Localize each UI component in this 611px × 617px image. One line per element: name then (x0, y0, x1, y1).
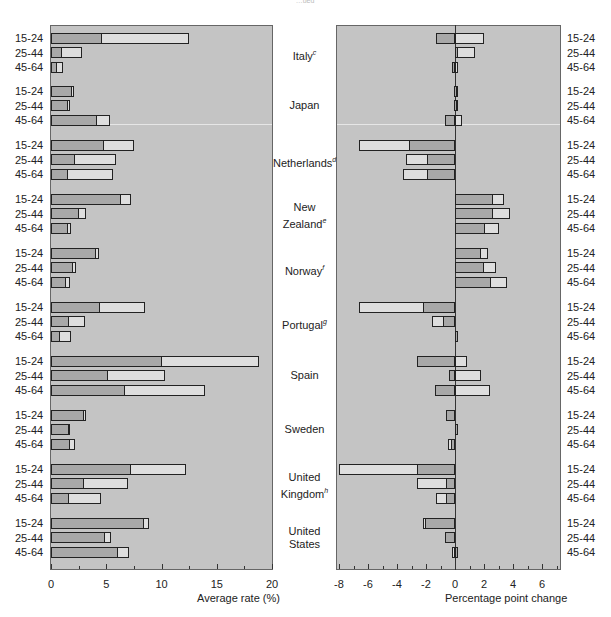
age-label-left: 25-44 (15, 100, 43, 112)
age-label-left: 25-44 (15, 47, 43, 59)
right-tick-label: -4 (382, 578, 412, 590)
bar-change-dark (445, 532, 455, 543)
age-label-left: 45-64 (15, 276, 43, 288)
bar-inner (51, 302, 100, 313)
age-label-left: 15-24 (15, 517, 43, 529)
bar-change-dark (455, 223, 485, 234)
bar-inner (51, 424, 69, 435)
bar-change-dark (452, 62, 455, 73)
age-label-left: 25-44 (15, 316, 43, 328)
country-label: Netherlandsd (273, 153, 336, 170)
bar-inner (51, 385, 125, 396)
bar-change-dark (449, 370, 455, 381)
age-label-right: 25-44 (567, 532, 595, 544)
bar-change-dark (454, 86, 457, 97)
bar-inner (51, 208, 79, 219)
bar-change-light (455, 356, 467, 367)
bar-change-dark (423, 302, 455, 313)
right-axis-title: Percentage point change (445, 592, 567, 604)
partial-caption: …ued (240, 0, 370, 6)
axis-tick (134, 566, 135, 569)
age-label-right: 45-64 (567, 438, 595, 450)
age-label-right: 45-64 (567, 330, 595, 342)
bar-change-light (455, 33, 484, 44)
bar-inner (51, 464, 131, 475)
age-label-right: 15-24 (567, 32, 595, 44)
right-tick-label: 4 (498, 578, 528, 590)
age-label-left: 15-24 (15, 355, 43, 367)
age-label-right: 45-64 (567, 114, 595, 126)
axis-tick (51, 564, 52, 569)
bar-inner (51, 547, 118, 558)
age-label-left: 15-24 (15, 463, 43, 475)
bar-change-dark (443, 316, 455, 327)
country-label: Italyc (273, 46, 336, 63)
axis-tick (513, 564, 514, 569)
age-label-left: 45-64 (15, 222, 43, 234)
bar-inner (51, 154, 75, 165)
age-label-right: 45-64 (567, 168, 595, 180)
bar-change-dark (425, 518, 455, 529)
left-axis-title: Average rate (%) (197, 592, 280, 604)
axis-tick (397, 564, 398, 569)
age-label-left: 45-64 (15, 61, 43, 73)
bar-inner (51, 223, 68, 234)
age-label-right: 15-24 (567, 301, 595, 313)
bar-change-dark (455, 277, 491, 288)
bar-inner (51, 33, 102, 44)
country-label: UnitedKingdomh (273, 471, 336, 501)
bar-inner (51, 532, 105, 543)
age-label-right: 25-44 (567, 208, 595, 220)
age-label-left: 45-64 (15, 438, 43, 450)
bar-change-dark (427, 169, 455, 180)
bar-inner (51, 47, 62, 58)
bar-change-dark (436, 33, 455, 44)
bar-change-dark (455, 424, 458, 435)
bar-inner (51, 100, 68, 111)
bar-inner (51, 439, 70, 450)
age-label-right: 25-44 (567, 370, 595, 382)
bar-change-light (455, 385, 490, 396)
bar-change-light (455, 47, 475, 58)
age-label-left: 45-64 (15, 384, 43, 396)
bar-inner (51, 140, 104, 151)
bar-change-light (455, 115, 462, 126)
age-label-right: 15-24 (567, 355, 595, 367)
age-label-left: 15-24 (15, 193, 43, 205)
bar-change-dark (435, 385, 455, 396)
age-label-left: 15-24 (15, 247, 43, 259)
age-label-right: 15-24 (567, 463, 595, 475)
age-label-right: 45-64 (567, 492, 595, 504)
bar-inner (51, 262, 73, 273)
bar-inner (51, 410, 84, 421)
age-label-right: 45-64 (567, 61, 595, 73)
axis-tick (79, 566, 80, 569)
age-label-left: 25-44 (15, 424, 43, 436)
axis-tick (339, 564, 340, 569)
bar-inner (51, 248, 96, 259)
right-tick-label: 2 (469, 578, 499, 590)
age-label-right: 15-24 (567, 193, 595, 205)
axis-tick (217, 564, 218, 569)
bar-change-dark (455, 262, 484, 273)
bar-change-dark (455, 331, 458, 342)
axis-tick (412, 566, 413, 569)
bar-inner (51, 356, 162, 367)
age-label-left: 25-44 (15, 370, 43, 382)
right-tick-label: 6 (527, 578, 557, 590)
bar-inner (51, 478, 84, 489)
bar-change-light (455, 62, 458, 73)
age-label-right: 25-44 (567, 47, 595, 59)
bar-change-dark (445, 115, 455, 126)
age-label-left: 45-64 (15, 114, 43, 126)
right-tick-label: -2 (411, 578, 441, 590)
age-label-right: 15-24 (567, 517, 595, 529)
age-label-right: 15-24 (567, 409, 595, 421)
age-label-right: 25-44 (567, 424, 595, 436)
country-label: Japan (273, 99, 336, 112)
age-label-right: 25-44 (567, 154, 595, 166)
country-label: Portugalg (273, 315, 336, 332)
country-label: Spain (273, 369, 336, 382)
age-label-left: 25-44 (15, 262, 43, 274)
axis-tick (542, 564, 543, 569)
